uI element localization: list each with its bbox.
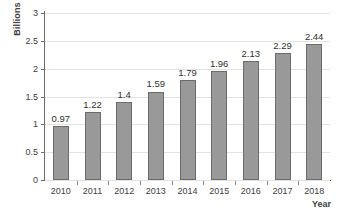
- x-tick-mark: [172, 181, 173, 185]
- x-tick-label: 2013: [146, 186, 166, 196]
- x-tick-mark: [108, 181, 109, 185]
- y-tick-label: 1.5: [25, 92, 38, 102]
- y-tick-label: 2.5: [25, 36, 38, 46]
- bar-value-label: 2.13: [242, 48, 261, 59]
- bar[interactable]: [275, 53, 291, 180]
- gridline: [45, 180, 330, 181]
- x-tick-mark: [77, 181, 78, 185]
- y-tick-label: 2: [33, 64, 38, 74]
- x-axis-title: Year: [312, 199, 331, 209]
- x-tick-label: 2016: [241, 186, 261, 196]
- x-tick-mark: [235, 181, 236, 185]
- bar[interactable]: [53, 126, 69, 180]
- bar-value-label: 0.97: [52, 113, 71, 124]
- y-tick-label: 0: [33, 175, 38, 185]
- y-tick-label: 1: [33, 119, 38, 129]
- gridline: [45, 13, 330, 14]
- bar[interactable]: [211, 71, 227, 180]
- bar[interactable]: [85, 112, 101, 180]
- y-tick-label: 3: [33, 8, 38, 18]
- x-tick-label: 2014: [177, 186, 197, 196]
- bar-value-label: 2.29: [273, 40, 292, 51]
- bar[interactable]: [148, 92, 164, 181]
- bar-value-label: 1.4: [118, 89, 131, 100]
- x-tick-mark: [267, 181, 268, 185]
- y-tick-label: 0.5: [25, 147, 38, 157]
- x-tick-label: 2015: [209, 186, 229, 196]
- bar-value-label: 2.44: [305, 31, 324, 42]
- bar[interactable]: [306, 44, 322, 180]
- plot-area: [45, 13, 330, 180]
- bar-chart: Billions 00.511.522.53 20102011201220132…: [0, 0, 337, 223]
- bar[interactable]: [243, 61, 259, 180]
- y-axis-title: Billions: [12, 0, 22, 49]
- bar[interactable]: [180, 80, 196, 180]
- x-tick-label: 2011: [83, 186, 102, 196]
- x-tick-label: 2012: [114, 186, 134, 196]
- x-tick-mark: [203, 181, 204, 185]
- x-tick-label: 2018: [304, 186, 324, 196]
- bar-value-label: 1.79: [178, 67, 197, 78]
- bar-value-label: 1.22: [83, 99, 102, 110]
- bar[interactable]: [116, 102, 132, 180]
- bar-value-label: 1.96: [210, 58, 229, 69]
- x-tick-mark: [140, 181, 141, 185]
- x-tick-mark: [298, 181, 299, 185]
- bar-value-label: 1.59: [147, 78, 166, 89]
- x-tick-label: 2017: [272, 186, 292, 196]
- x-tick-label: 2010: [51, 186, 71, 196]
